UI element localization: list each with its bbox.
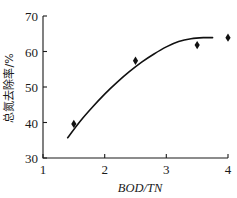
chart-figure: 30 40 50 60 70 1 2 3 4 BOD/TN 总氮去除率/% [0,0,237,198]
chart-svg: 30 40 50 60 70 1 2 3 4 BOD/TN 总氮去除率/% [0,0,237,198]
x-axis-title: BOD/TN [118,181,163,195]
y-tick-label: 70 [25,9,38,24]
y-tick-label: 60 [25,45,38,60]
x-tick-label: 1 [40,162,47,177]
y-axis-title: 总氮去除率/% [2,53,16,122]
chart-background [0,0,237,198]
x-tick-label: 2 [101,162,108,177]
y-tick-label: 50 [25,80,38,95]
y-tick-label: 30 [25,151,38,166]
y-tick-label: 40 [25,116,38,131]
x-tick-label: 4 [225,162,232,177]
x-tick-label: 3 [163,162,170,177]
